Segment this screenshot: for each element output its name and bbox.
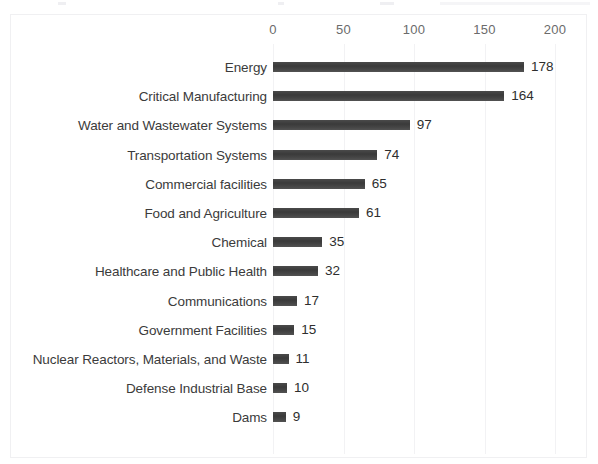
bar <box>273 62 524 72</box>
category-label: Water and Wastewater Systems <box>78 118 267 133</box>
category-label: Transportation Systems <box>127 148 267 163</box>
bar-row: Healthcare and Public Health32 <box>0 262 598 291</box>
bar-row: Government Facilities15 <box>0 321 598 350</box>
bar <box>273 150 377 160</box>
bar-value-label: 178 <box>531 59 554 74</box>
bar <box>273 412 286 422</box>
bar <box>273 208 359 218</box>
bar-value-label: 65 <box>372 176 387 191</box>
category-label: Defense Industrial Base <box>126 381 267 396</box>
bar <box>273 383 287 393</box>
bar-value-label: 97 <box>417 117 432 132</box>
bar-value-label: 11 <box>296 351 310 366</box>
x-axis-tick-labels: 050100150200 <box>0 22 598 42</box>
bar-row: Energy178 <box>0 58 598 87</box>
x-tick-label: 150 <box>455 22 515 37</box>
category-label: Government Facilities <box>139 323 267 338</box>
bar-chart: 050100150200 Energy178Critical Manufactu… <box>0 0 598 464</box>
category-label: Energy <box>225 60 267 75</box>
category-label: Nuclear Reactors, Materials, and Waste <box>33 352 267 367</box>
category-label: Healthcare and Public Health <box>95 264 267 279</box>
category-label: Dams <box>232 410 267 425</box>
bar-row: Communications17 <box>0 292 598 321</box>
bar <box>273 354 289 364</box>
bar-value-label: 9 <box>293 409 301 424</box>
bar-value-label: 32 <box>325 263 340 278</box>
bar-value-label: 10 <box>294 380 309 395</box>
x-tick-label: 200 <box>525 22 585 37</box>
bar-value-label: 164 <box>511 88 534 103</box>
category-label: Chemical <box>212 235 267 250</box>
bar <box>273 91 504 101</box>
bar-row: Water and Wastewater Systems97 <box>0 116 598 145</box>
bar-row: Transportation Systems74 <box>0 146 598 175</box>
bar-row: Critical Manufacturing164 <box>0 87 598 116</box>
bar <box>273 179 365 189</box>
bar-value-label: 74 <box>384 147 399 162</box>
category-label: Communications <box>168 294 267 309</box>
bar <box>273 325 294 335</box>
bar <box>273 237 322 247</box>
bar-row: Dams9 <box>0 408 598 437</box>
x-tick-label: 50 <box>314 22 374 37</box>
category-label: Critical Manufacturing <box>139 89 267 104</box>
bar-value-label: 17 <box>304 293 319 308</box>
bar <box>273 120 410 130</box>
bar-row: Chemical35 <box>0 233 598 262</box>
bar-row: Nuclear Reactors, Materials, and Waste11 <box>0 350 598 379</box>
bar <box>273 296 297 306</box>
bar-value-label: 15 <box>301 322 316 337</box>
bar-row: Defense Industrial Base10 <box>0 379 598 408</box>
bar-row: Food and Agriculture61 <box>0 204 598 233</box>
bar-row: Commercial facilities65 <box>0 175 598 204</box>
category-label: Food and Agriculture <box>144 206 267 221</box>
bar-value-label: 61 <box>366 205 381 220</box>
x-tick-label: 0 <box>243 22 303 37</box>
bar <box>273 266 318 276</box>
category-label: Commercial facilities <box>145 177 267 192</box>
bar-value-label: 35 <box>329 234 344 249</box>
x-tick-label: 100 <box>384 22 444 37</box>
